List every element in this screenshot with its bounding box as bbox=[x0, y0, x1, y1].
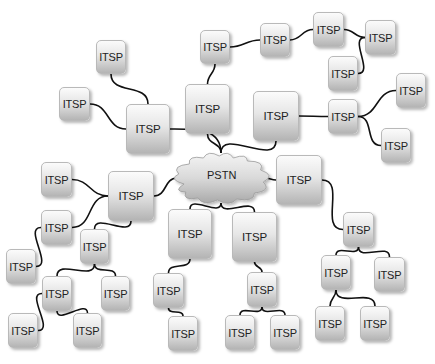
itsp-node: ITSP bbox=[381, 128, 411, 163]
itsp-node: ITSP bbox=[247, 272, 277, 307]
connection-line bbox=[240, 307, 262, 315]
connection-line bbox=[169, 259, 191, 273]
itsp-node: ITSP bbox=[153, 273, 184, 308]
itsp-node-label: ITSP bbox=[331, 68, 355, 80]
connection-line bbox=[111, 74, 148, 104]
itsp-node: ITSP bbox=[168, 209, 212, 259]
itsp-node: ITSP bbox=[8, 313, 38, 348]
connection-line bbox=[262, 307, 285, 315]
pstn-label: PSTN bbox=[207, 169, 236, 181]
connection-line bbox=[90, 104, 126, 129]
connection-line bbox=[322, 180, 343, 230]
itsp-node: ITSP bbox=[396, 73, 426, 108]
connection-line bbox=[208, 64, 216, 84]
itsp-node: ITSP bbox=[270, 315, 300, 350]
connection-line bbox=[95, 221, 132, 229]
itsp-node-label: ITSP bbox=[76, 325, 100, 337]
connection-line bbox=[221, 141, 276, 153]
itsp-node: ITSP bbox=[80, 229, 109, 264]
connection-line bbox=[95, 264, 116, 276]
itsp-node: ITSP bbox=[101, 276, 130, 311]
itsp-node-label: ITSP bbox=[203, 41, 227, 53]
itsp-node-label: ITSP bbox=[119, 190, 144, 202]
connection-line bbox=[336, 247, 359, 255]
itsp-node-label: ITSP bbox=[9, 261, 33, 273]
itsp-node: ITSP bbox=[225, 315, 255, 350]
itsp-node: ITSP bbox=[276, 155, 322, 205]
connection-line bbox=[358, 91, 396, 117]
itsp-node-label: ITSP bbox=[136, 123, 161, 135]
itsp-node-label: ITSP bbox=[45, 174, 69, 186]
itsp-node-label: ITSP bbox=[83, 241, 107, 253]
itsp-node-label: ITSP bbox=[45, 222, 69, 234]
connection-line bbox=[57, 264, 95, 276]
itsp-node: ITSP bbox=[185, 84, 230, 134]
itsp-node-label: ITSP bbox=[250, 284, 274, 296]
itsp-node-label: ITSP bbox=[178, 228, 203, 240]
connection-line bbox=[299, 116, 328, 117]
itsp-node: ITSP bbox=[200, 30, 230, 64]
itsp-node: ITSP bbox=[96, 40, 126, 74]
itsp-node: ITSP bbox=[42, 276, 72, 311]
connection-line bbox=[336, 290, 375, 306]
itsp-node: ITSP bbox=[41, 162, 72, 197]
itsp-node-label: ITSP bbox=[242, 231, 267, 243]
itsp-node: ITSP bbox=[6, 249, 36, 284]
itsp-node: ITSP bbox=[328, 56, 358, 91]
itsp-node-label: ITSP bbox=[378, 269, 402, 281]
connection-line bbox=[72, 180, 108, 197]
itsp-node: ITSP bbox=[41, 210, 72, 245]
itsp-node-label: ITSP bbox=[347, 224, 371, 236]
itsp-node-label: ITSP bbox=[104, 288, 128, 300]
itsp-node-label: ITSP bbox=[45, 288, 69, 300]
itsp-node: ITSP bbox=[126, 104, 170, 154]
itsp-node: ITSP bbox=[321, 255, 351, 290]
itsp-node: ITSP bbox=[253, 91, 299, 141]
itsp-node-label: ITSP bbox=[228, 327, 252, 339]
itsp-node-label: ITSP bbox=[287, 174, 312, 186]
itsp-node: ITSP bbox=[73, 313, 102, 348]
itsp-node-label: ITSP bbox=[273, 327, 297, 339]
connection-line bbox=[358, 38, 365, 74]
itsp-node: ITSP bbox=[232, 212, 277, 262]
network-diagram: ITSPITSPITSPITSPITSPITSPITSPITSPITSPITSP… bbox=[0, 0, 435, 364]
itsp-node: ITSP bbox=[59, 87, 90, 121]
itsp-node-label: ITSP bbox=[99, 51, 123, 63]
connection-line bbox=[154, 178, 177, 196]
connection-line bbox=[330, 290, 336, 306]
itsp-node-label: ITSP bbox=[399, 85, 423, 97]
itsp-node: ITSP bbox=[168, 316, 198, 351]
itsp-node: ITSP bbox=[360, 306, 390, 341]
itsp-node: ITSP bbox=[108, 171, 154, 221]
itsp-node-label: ITSP bbox=[195, 103, 220, 115]
itsp-node: ITSP bbox=[343, 212, 374, 247]
itsp-node-label: ITSP bbox=[11, 325, 35, 337]
itsp-node-label: ITSP bbox=[157, 285, 181, 297]
connection-line bbox=[255, 262, 263, 272]
connection-line bbox=[169, 308, 184, 316]
itsp-node-label: ITSP bbox=[318, 318, 342, 330]
connection-line bbox=[221, 203, 255, 212]
itsp-node-label: ITSP bbox=[264, 110, 289, 122]
itsp-node: ITSP bbox=[374, 257, 405, 292]
itsp-node-label: ITSP bbox=[263, 34, 287, 46]
itsp-node-label: ITSP bbox=[369, 32, 393, 44]
connection-line bbox=[358, 117, 381, 146]
itsp-node-label: ITSP bbox=[63, 98, 87, 110]
itsp-node-label: ITSP bbox=[171, 328, 195, 340]
itsp-node-label: ITSP bbox=[384, 140, 408, 152]
itsp-node: ITSP bbox=[365, 20, 396, 55]
itsp-node-label: ITSP bbox=[363, 318, 387, 330]
itsp-node: ITSP bbox=[313, 12, 344, 47]
itsp-node: ITSP bbox=[260, 23, 290, 57]
itsp-node: ITSP bbox=[328, 99, 358, 134]
itsp-node-label: ITSP bbox=[317, 24, 341, 36]
connection-line bbox=[344, 30, 365, 38]
connection-line bbox=[359, 247, 390, 257]
itsp-node-label: ITSP bbox=[331, 111, 355, 123]
connection-line bbox=[290, 30, 313, 41]
itsp-node-label: ITSP bbox=[324, 267, 348, 279]
connection-line bbox=[230, 40, 260, 47]
itsp-node: ITSP bbox=[315, 306, 345, 341]
